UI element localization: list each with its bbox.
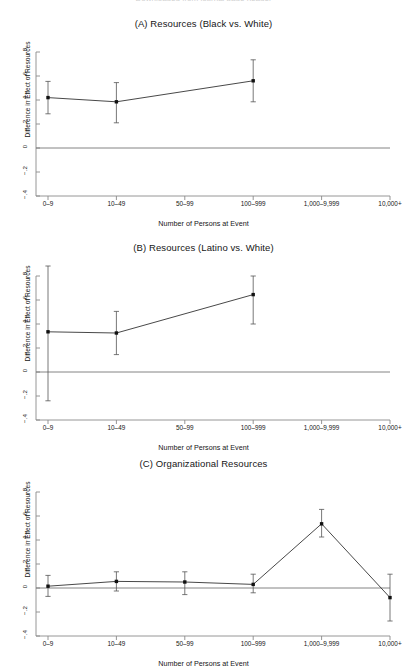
panel-b-title: (B) Resources (Latino vs. White) — [0, 242, 407, 253]
y-tick-label: .2 — [21, 337, 28, 357]
y-tick-label: .4 — [21, 313, 28, 333]
data-point-marker — [46, 96, 49, 99]
y-tick-label: .8 — [21, 265, 28, 285]
panel-b-plot — [0, 256, 407, 442]
y-tick-label: 0 — [21, 361, 28, 381]
y-tick-label: .6 — [21, 289, 28, 309]
y-tick-label: .8 — [21, 41, 28, 61]
y-tick-label: −.2 — [21, 385, 28, 405]
figure-root: Downloaded from journal page header (A) … — [0, 0, 407, 672]
x-tick-label: 10,000+ — [378, 424, 401, 431]
y-tick-label: 0 — [21, 577, 28, 597]
x-tick-label: 100–999 — [241, 200, 266, 207]
x-tick-label: 10–49 — [108, 640, 126, 647]
y-tick-label: −.4 — [21, 185, 28, 205]
data-point-marker — [252, 583, 255, 586]
x-tick-label: 50–99 — [176, 200, 194, 207]
data-point-marker — [252, 293, 255, 296]
data-point-marker — [320, 522, 323, 525]
data-point-marker — [388, 596, 391, 599]
data-point-marker — [46, 330, 49, 333]
x-tick-label: 10–49 — [108, 424, 126, 431]
x-tick-label: 50–99 — [176, 424, 194, 431]
y-tick-label: 0 — [21, 137, 28, 157]
y-tick-label: −.4 — [21, 625, 28, 645]
cut-off-page-header: Downloaded from journal page header — [0, 0, 407, 1]
x-tick-label: 10–49 — [108, 200, 126, 207]
series-line — [48, 524, 390, 598]
y-tick-label: −.2 — [21, 161, 28, 181]
y-tick-label: .4 — [21, 89, 28, 109]
y-tick-label: .2 — [21, 553, 28, 573]
y-tick-label: .4 — [21, 529, 28, 549]
data-point-marker — [115, 100, 118, 103]
panel-c-title: (C) Organizational Resources — [0, 458, 407, 469]
x-tick-label: 0–9 — [43, 200, 54, 207]
panel-a-x-axis-label: Number of Persons at Event — [0, 219, 407, 228]
y-tick-label: .8 — [21, 481, 28, 501]
x-tick-label: 1,000–9,999 — [304, 200, 340, 207]
panel-c-plot — [0, 472, 407, 658]
series-line — [48, 295, 253, 333]
x-tick-label: 1,000–9,999 — [304, 640, 340, 647]
panel-b: (B) Resources (Latino vs. White) Differe… — [0, 238, 407, 462]
data-point-marker — [46, 585, 49, 588]
x-tick-label: 50–99 — [176, 640, 194, 647]
y-tick-label: −.2 — [21, 601, 28, 621]
panel-b-x-axis-label: Number of Persons at Event — [0, 443, 407, 452]
panel-a-plot — [0, 32, 407, 218]
x-tick-label: 0–9 — [43, 640, 54, 647]
data-point-marker — [252, 79, 255, 82]
x-tick-label: 1,000–9,999 — [304, 424, 340, 431]
y-tick-label: .2 — [21, 113, 28, 133]
panel-c-x-axis-label: Number of Persons at Event — [0, 659, 407, 668]
x-tick-label: 10,000+ — [378, 640, 401, 647]
x-tick-label: 10,000+ — [378, 200, 401, 207]
series-line — [48, 81, 253, 102]
data-point-marker — [183, 580, 186, 583]
panel-a: (A) Resources (Black vs. White) Differen… — [0, 14, 407, 238]
x-tick-label: 100–999 — [241, 640, 266, 647]
panel-a-title: (A) Resources (Black vs. White) — [0, 18, 407, 29]
y-tick-label: .6 — [21, 505, 28, 525]
data-point-marker — [115, 331, 118, 334]
panel-c: (C) Organizational Resources Difference … — [0, 454, 407, 672]
y-tick-label: −.4 — [21, 409, 28, 429]
x-tick-label: 100–999 — [241, 424, 266, 431]
data-point-marker — [115, 580, 118, 583]
y-tick-label: .6 — [21, 65, 28, 85]
x-tick-label: 0–9 — [43, 424, 54, 431]
